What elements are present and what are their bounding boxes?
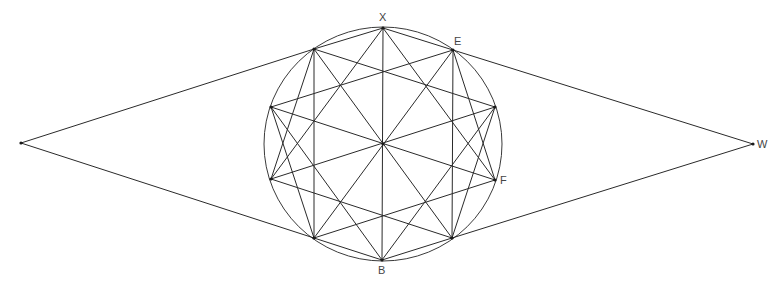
vertex-points [19, 26, 754, 261]
point-ll [312, 236, 315, 239]
segment-l-ll [21, 143, 314, 238]
segment-e-lr [452, 50, 453, 238]
segment-rt-lr [452, 107, 495, 238]
segment-b-ll [314, 238, 382, 260]
point-l [19, 141, 22, 144]
point-b [380, 258, 383, 261]
label-w: W [757, 139, 767, 150]
point-w [751, 142, 754, 145]
point-lr [450, 236, 453, 239]
segment-lb-lr [271, 179, 452, 238]
point-e [451, 48, 454, 51]
geometric-diagram [0, 0, 776, 289]
segment-x-lb [271, 28, 383, 179]
segment-lt-e [271, 50, 453, 107]
label-f: F [500, 175, 507, 186]
segment-w-e [453, 50, 753, 144]
label-e: E [454, 36, 461, 47]
point-rt [493, 105, 496, 108]
segment-b-rt [382, 107, 495, 260]
point-ul [312, 47, 315, 50]
segment-x-e [383, 28, 453, 50]
segment-b-lr [382, 238, 452, 260]
segment-w-lr [452, 144, 753, 238]
segment-x-ul [314, 28, 383, 49]
label-b: B [378, 265, 385, 276]
point-f [493, 178, 496, 181]
segment-l-ul [21, 49, 314, 143]
line-segments [21, 28, 753, 260]
point-c [381, 142, 384, 145]
point-lt [269, 105, 272, 108]
segment-lt-ll [271, 107, 314, 238]
point-x [381, 26, 384, 29]
label-x: X [379, 12, 386, 23]
point-lb [269, 177, 272, 180]
